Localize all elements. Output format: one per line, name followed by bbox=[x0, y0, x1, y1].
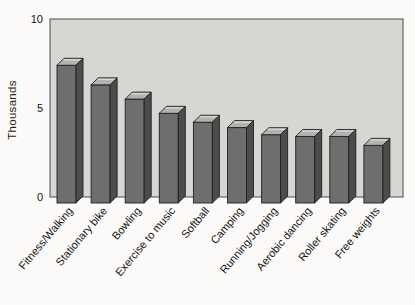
y-tick-label: 0 bbox=[37, 191, 43, 203]
category-label-group: Bowling bbox=[109, 205, 143, 242]
category-label-group: Exercise to music bbox=[113, 204, 178, 278]
y-axis-title: Thousands bbox=[6, 80, 18, 140]
bar-side-face bbox=[76, 58, 83, 203]
bar-front-face bbox=[296, 136, 315, 203]
bar-side-face bbox=[315, 129, 322, 203]
category-label: Softball bbox=[179, 205, 212, 241]
category-label: Bowling bbox=[109, 205, 143, 242]
y-tick-label: 5 bbox=[37, 102, 43, 114]
bar-front-face bbox=[228, 128, 247, 203]
bar-side-face bbox=[247, 121, 254, 203]
category-label-group: Softball bbox=[179, 205, 212, 241]
category-label: Exercise to music bbox=[113, 204, 178, 278]
bar-front-face bbox=[125, 99, 144, 203]
bar-side-face bbox=[383, 138, 390, 203]
y-tick-label: 10 bbox=[31, 13, 43, 25]
bar-front-face bbox=[91, 85, 110, 203]
bar-front-face bbox=[364, 145, 383, 203]
bar-chart-3d: 0510Fitness/WalkingStationary bikeBowlin… bbox=[0, 0, 415, 305]
bar-front-face bbox=[57, 65, 76, 203]
bar-front-face bbox=[193, 122, 212, 203]
bar-front-face bbox=[262, 135, 281, 203]
bar-front-face bbox=[159, 113, 178, 203]
chart-canvas: 0510Fitness/WalkingStationary bikeBowlin… bbox=[0, 0, 415, 305]
bar-side-face bbox=[110, 78, 117, 203]
bar-side-face bbox=[349, 129, 356, 203]
bar-side-face bbox=[212, 115, 219, 203]
scanned-chart-page: 0510Fitness/WalkingStationary bikeBowlin… bbox=[0, 0, 415, 305]
bar-side-face bbox=[178, 106, 185, 203]
bar-side-face bbox=[281, 128, 288, 203]
bar-side-face bbox=[144, 92, 151, 203]
bar-front-face bbox=[330, 136, 349, 203]
